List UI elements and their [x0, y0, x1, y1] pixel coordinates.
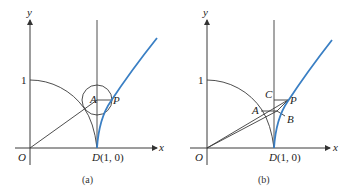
origin-label: O	[18, 151, 26, 163]
point-A-label: A	[251, 104, 259, 116]
blue-curve	[97, 38, 157, 148]
x-axis-label: x	[332, 141, 338, 153]
tick-1-label: 1	[198, 74, 204, 86]
line-OB	[207, 111, 277, 148]
caption-b: (b)	[258, 174, 270, 186]
point-D-label: D(1, 0)	[268, 151, 301, 164]
y-axis-label: y	[202, 6, 208, 18]
line-OP	[207, 100, 288, 148]
figure: y x 1 O A P D(1, 0) (a) y x 1 O C P A B …	[0, 0, 357, 192]
point-A-label: A	[89, 93, 97, 105]
caption-a: (a)	[82, 174, 93, 186]
panel-b: y x 1 O C P A B D(1, 0) (b)	[190, 6, 338, 186]
point-D-label: D(1, 0)	[91, 151, 124, 164]
unit-arc	[30, 80, 84, 108]
origin-label: O	[195, 151, 203, 163]
line-OA	[30, 100, 97, 148]
point-B-label: B	[287, 113, 294, 125]
y-axis-label: y	[26, 6, 32, 18]
point-C-label: C	[265, 88, 273, 100]
point-P-label: P	[112, 94, 120, 106]
panel-a: y x 1 O A P D(1, 0) (a)	[15, 6, 164, 186]
tick-1-label: 1	[21, 74, 27, 86]
blue-curve	[274, 40, 332, 148]
point-P-label: P	[289, 94, 297, 106]
x-axis-label: x	[158, 141, 164, 153]
